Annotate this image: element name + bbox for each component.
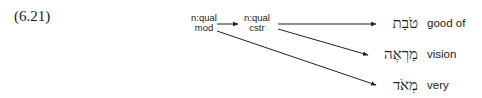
leaf-gloss-vision: vision [427, 48, 456, 60]
arrow-mod-to-very [217, 31, 376, 85]
arrow-cstr-to-vision [278, 29, 368, 55]
leaf-hebrew-very: מְאֹד [374, 76, 418, 94]
leaf-hebrew-good-of: טֹבַת [374, 14, 418, 32]
leaf-hebrew-vision: מַרְאֶה [374, 45, 418, 63]
leaf-gloss-very: very [427, 79, 449, 91]
leaf-gloss-good-of: good of [427, 17, 465, 29]
